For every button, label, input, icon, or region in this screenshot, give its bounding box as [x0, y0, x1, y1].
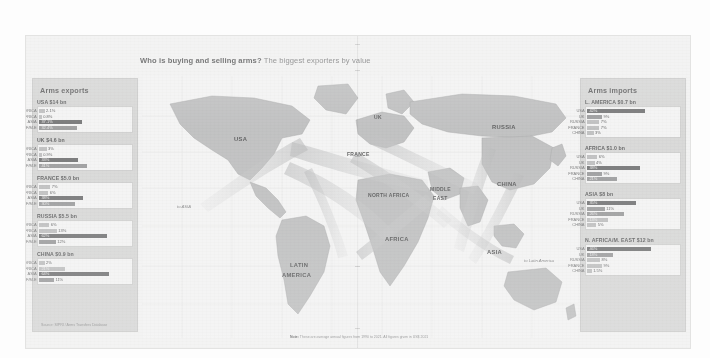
bar-row: USA46% [586, 247, 680, 252]
bar-row-label: AFRICA [26, 114, 37, 119]
footnote-prefix: Note: [290, 335, 299, 339]
bar-row: CHINA3% [586, 131, 680, 136]
artwork-sheet: Who is buying and selling arms? The bigg… [26, 36, 690, 348]
bar-row-label: CHINA [572, 130, 584, 135]
bar-value: 38% [588, 165, 598, 170]
bar-value: 62% [40, 233, 50, 238]
bar-row-label: N.AF/M.E [26, 125, 37, 130]
bar-value: 21% [588, 176, 598, 181]
bar-value: 11% [54, 277, 63, 282]
bar-fill [39, 223, 49, 227]
bar-row-label: USA [576, 200, 584, 205]
bar-row: FRANCE9% [586, 171, 680, 176]
exports-block-header: USA $14 bn [37, 99, 133, 105]
bar-value: 13% [57, 228, 67, 233]
bar-row: UK11% [586, 206, 680, 211]
imports-block-n-africa-m-east: N. AFRICA/M. EAST $12 bnUSA46%UK18%RUSSI… [585, 237, 681, 276]
page-title-rest: The biggest exporters by value [262, 56, 371, 65]
bar-fill [587, 172, 602, 176]
bar-row-label: ASIA [28, 271, 37, 276]
exports-block-china: CHINA $0.9 bnL. AMERICA2%AFRICA21%ASIA64… [37, 251, 133, 285]
bar-row: ASIA38% [38, 196, 132, 201]
bar-row: L. AMERICA6% [38, 223, 132, 228]
bar-row-label: UK [579, 206, 584, 211]
bar-row-label: L. AMERICA [26, 260, 37, 265]
bar-row: N.AF/M.E12% [38, 239, 132, 244]
bar-value: 1.5% [592, 268, 603, 273]
bar-fill [39, 191, 48, 195]
arms-exports-title: Arms exports [40, 86, 89, 95]
bar-group: L. AMERICA7%AFRICA6%ASIA38%N.AF/M.E30% [37, 182, 133, 209]
exports-block-header: RUSSIA $5.5 bn [37, 213, 133, 219]
bar-value: 37.1% [40, 119, 53, 124]
bar-row: ASIA33% [38, 158, 132, 163]
bar-value: 30% [40, 201, 50, 206]
bar-value: 9% [602, 263, 609, 268]
bar-group: USA42%UK9%RUSSIA7%FRANCE7%CHINA3% [585, 106, 681, 138]
bar-value: 4% [594, 160, 601, 165]
bar-value: 5% [596, 222, 603, 227]
bar-row-label: RUSSIA [570, 257, 585, 262]
exports-block-header: FRANCE $5.0 bn [37, 175, 133, 181]
bar-row-label: RUSSIA [570, 119, 585, 124]
bar-value: 6% [597, 154, 604, 159]
bar-row-label: N.AF/M.E [26, 277, 37, 282]
bar-row-label: AFRICA [26, 228, 37, 233]
bar-row-label: CHINA [572, 222, 584, 227]
bar-row: CHINA5% [586, 223, 680, 228]
bar-value: 11% [605, 206, 614, 211]
bar-row-label: UK [579, 160, 584, 165]
exports-block-uk: UK $4.6 bnL. AMERICA3%AFRICA0.9%ASIA33%N… [37, 137, 133, 171]
bar-fill [39, 272, 109, 276]
bar-row-label: FRANCE [568, 217, 584, 222]
bar-row-label: USA [576, 246, 584, 251]
bar-value: 2% [45, 260, 52, 265]
footnote-text: These are average annual figures from 19… [299, 335, 428, 339]
bar-value: 64% [40, 271, 50, 276]
bar-value: 41% [40, 163, 50, 168]
bar-row-label: FRANCE [568, 263, 584, 268]
exports-block-france: FRANCE $5.0 bnL. AMERICA7%AFRICA6%ASIA38… [37, 175, 133, 209]
landmasses [170, 84, 576, 320]
bar-group: L. AMERICA2.1%AFRICA0.8%ASIA37.1%N.AF/M.… [37, 106, 133, 133]
bar-group: L. AMERICA6%AFRICA13%ASIA62%N.AF/M.E12% [37, 220, 133, 247]
bar-row-label: AFRICA [26, 266, 37, 271]
bar-row-label: USA [576, 154, 584, 159]
infographic-page: Who is buying and selling arms? The bigg… [0, 0, 710, 358]
imports-block-l-america: L. AMERICA $0.7 bnUSA42%UK9%RUSSIA7%FRAN… [585, 99, 681, 138]
bar-value: 35% [588, 200, 598, 205]
bar-fill [587, 258, 600, 262]
page-title-bold: Who is buying and selling arms? [140, 56, 262, 65]
bar-value: 42% [588, 108, 598, 113]
bar-row: N.AF/M.E32.4% [38, 125, 132, 130]
bar-fill [587, 223, 596, 227]
bar-fill [587, 115, 602, 119]
bar-row: UK4% [586, 160, 680, 165]
bar-fill [587, 264, 602, 268]
bar-group: L. AMERICA3%AFRICA0.9%ASIA33%N.AF/M.E41% [37, 144, 133, 171]
bar-row: AFRICA13% [38, 228, 132, 233]
bar-row-label: L. AMERICA [26, 184, 37, 189]
bar-row: RUSSIA8% [586, 258, 680, 263]
imports-block-header: ASIA $8 bn [585, 191, 681, 197]
bar-value: 8% [600, 257, 607, 262]
bar-value: 13% [588, 217, 598, 222]
bar-row-label: ASIA [28, 195, 37, 200]
bar-group: USA46%UK18%RUSSIA8%FRANCE9%CHINA1.5% [585, 244, 681, 276]
bar-row: RUSSIA26% [586, 212, 680, 217]
bar-value: 0.9% [42, 152, 53, 157]
bar-fill [39, 278, 54, 282]
arms-exports-panel: Arms exports USA $14 bnL. AMERICA2.1%AFR… [32, 78, 138, 332]
bar-value: 33% [40, 157, 50, 162]
bar-fill [39, 185, 50, 189]
bar-value: 46% [588, 246, 598, 251]
bar-value: 3% [594, 130, 601, 135]
bar-row: USA35% [586, 201, 680, 206]
page-title: Who is buying and selling arms? The bigg… [140, 56, 371, 65]
imports-block-header: N. AFRICA/M. EAST $12 bn [585, 237, 681, 243]
bar-row-label: RUSSIA [570, 165, 585, 170]
arms-imports-panel: Arms imports L. AMERICA $0.7 bnUSA42%UK9… [580, 78, 686, 332]
bar-row: L. AMERICA2% [38, 261, 132, 266]
bar-value: 0.8% [42, 114, 53, 119]
bar-row: N.AF/M.E30% [38, 201, 132, 206]
